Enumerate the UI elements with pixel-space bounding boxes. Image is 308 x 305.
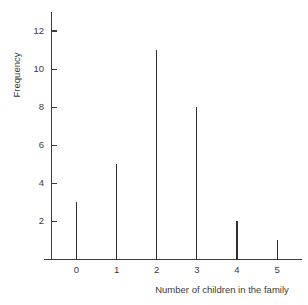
- x-axis-ticks: 012345: [74, 254, 280, 275]
- y-tick-label: 6: [39, 139, 44, 150]
- x-tick-label: 5: [274, 264, 279, 275]
- data-series-spikes: [76, 50, 277, 259]
- x-tick-label: 1: [114, 264, 119, 275]
- axes-group: [44, 12, 302, 260]
- y-tick-label: 8: [39, 101, 44, 112]
- y-tick-label: 2: [39, 215, 44, 226]
- x-tick-label: 2: [154, 264, 159, 275]
- y-tick-label: 4: [39, 177, 44, 188]
- frequency-chart: 24681012 012345 Number of children in th…: [0, 0, 308, 305]
- y-axis-ticks: 24681012: [33, 25, 57, 226]
- y-tick-label: 12: [33, 25, 44, 36]
- x-tick-label: 3: [194, 264, 199, 275]
- x-axis-title: Number of children in the family: [155, 284, 289, 295]
- y-tick-label: 10: [33, 63, 44, 74]
- x-tick-label: 0: [74, 264, 79, 275]
- chart-plot-area: 24681012 012345 Number of children in th…: [0, 0, 308, 305]
- x-tick-label: 4: [234, 264, 239, 275]
- y-axis-title: Frequency: [11, 52, 22, 97]
